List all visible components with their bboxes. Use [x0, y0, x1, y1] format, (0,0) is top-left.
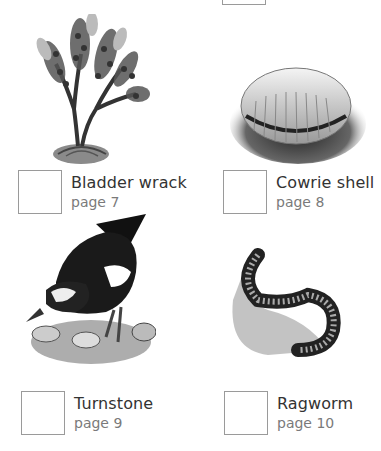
bladder-wrack-illustration — [36, 14, 156, 164]
item-name: Turnstone — [74, 394, 153, 413]
ragworm-illustration — [228, 240, 353, 360]
item-page: page 8 — [276, 194, 324, 210]
item-page: page 10 — [277, 415, 334, 431]
item-name: Cowrie shell — [276, 173, 374, 192]
turnstone-illustration — [26, 212, 156, 372]
item-page: page 7 — [71, 194, 119, 210]
item-page: page 9 — [74, 415, 122, 431]
checkbox-cowrie-shell[interactable] — [223, 170, 267, 214]
checkbox-turnstone[interactable] — [21, 391, 65, 435]
cowrie-shell-illustration — [226, 56, 366, 166]
item-name: Bladder wrack — [71, 173, 187, 192]
checkbox-ragworm[interactable] — [224, 391, 268, 435]
checkbox-top-partial[interactable] — [222, 0, 266, 5]
checkbox-bladder-wrack[interactable] — [18, 170, 62, 214]
item-name: Ragworm — [277, 394, 353, 413]
